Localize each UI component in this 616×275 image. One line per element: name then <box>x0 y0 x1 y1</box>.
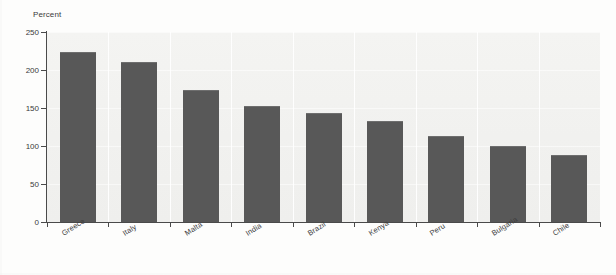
y-tick-label: 50 <box>17 180 39 189</box>
gridline-vertical <box>416 32 417 222</box>
y-tick-mark <box>41 108 47 109</box>
bar-chart-figure: Percent 050100150200250 GreeceItalyMalta… <box>0 0 616 275</box>
bar-bulgaria <box>490 146 526 222</box>
gridline-horizontal <box>47 32 600 33</box>
y-tick-mark <box>41 184 47 185</box>
y-tick-mark <box>41 32 47 33</box>
gridline-vertical <box>477 32 478 222</box>
x-axis-label-peru: Peru <box>428 221 447 237</box>
bar-peru <box>428 136 464 222</box>
bar-brazil <box>306 113 342 222</box>
gridline-vertical <box>231 32 232 222</box>
bar-greece <box>60 52 96 222</box>
gridline-vertical <box>170 32 171 222</box>
x-tick-mark <box>539 223 540 227</box>
y-axis-line <box>46 31 47 223</box>
bar-india <box>244 106 280 222</box>
gridline-vertical <box>108 32 109 222</box>
bar-italy <box>121 62 157 222</box>
x-tick-mark <box>170 223 171 227</box>
gridline-vertical <box>354 32 355 222</box>
y-tick-label: 0 <box>17 218 39 227</box>
gridline-vertical <box>539 32 540 222</box>
gridline-vertical <box>293 32 294 222</box>
y-tick-label: 250 <box>17 28 39 37</box>
y-tick-mark <box>41 146 47 147</box>
y-tick-mark <box>41 70 47 71</box>
bar-malta <box>183 90 219 222</box>
x-tick-mark <box>416 223 417 227</box>
x-tick-mark <box>231 223 232 227</box>
y-tick-label: 100 <box>17 142 39 151</box>
y-tick-label: 150 <box>17 104 39 113</box>
x-tick-mark <box>47 223 48 227</box>
x-tick-mark <box>293 223 294 227</box>
bar-chile <box>551 155 587 222</box>
x-tick-mark <box>600 223 601 227</box>
bar-kenya <box>367 121 403 222</box>
y-tick-label: 200 <box>17 66 39 75</box>
x-axis-label-chile: Chile <box>551 221 571 238</box>
x-tick-mark <box>354 223 355 227</box>
x-axis-label-india: India <box>244 221 263 238</box>
y-axis-label: Percent <box>33 10 61 19</box>
x-tick-mark <box>477 223 478 227</box>
x-axis-label-italy: Italy <box>121 222 138 237</box>
x-tick-mark <box>108 223 109 227</box>
